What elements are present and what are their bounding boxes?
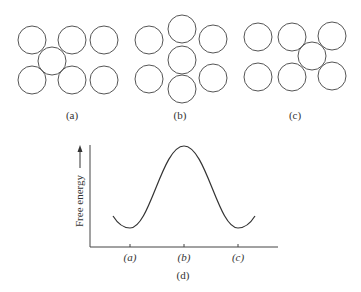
panel-d-label: (d) <box>177 269 190 282</box>
tick-label-c: (c) <box>232 251 245 264</box>
atom-circles <box>18 15 346 103</box>
atom-circle-panel-b <box>168 75 196 103</box>
atom-circle-panel-a <box>18 66 46 94</box>
arrow-head-icon <box>78 145 83 152</box>
y-axis-label-group: Free energy <box>73 174 85 227</box>
atom-circle-panel-c <box>278 63 306 91</box>
atom-circle-panel-b <box>168 46 196 74</box>
atom-circle-panel-b <box>199 25 227 53</box>
free-energy-curve <box>113 146 255 228</box>
atom-circle-panel-a <box>58 66 86 94</box>
atom-circle-panel-b <box>199 64 227 92</box>
tick-label-a: (a) <box>124 251 137 264</box>
atom-circle-panel-b <box>135 65 163 93</box>
tick-label-b: (b) <box>178 251 191 264</box>
energy-chart: Free energy (a) (b) (c) (d) <box>73 145 278 282</box>
atom-circle-panel-a <box>90 26 118 54</box>
y-axis-label: Free energy <box>73 174 85 227</box>
atom-circle-panel-a <box>90 66 118 94</box>
atom-circle-panel-c <box>244 23 272 51</box>
atom-circle-panel-c <box>318 62 346 90</box>
atom-circle-panel-c <box>244 63 272 91</box>
panel-a-label: (a) <box>66 109 79 122</box>
diffusion-diagram: (a) (b) (c) Free energy (a) (b) (c) (d) <box>0 0 361 292</box>
atom-circle-panel-a <box>18 26 46 54</box>
atom-circle-panel-b <box>168 15 196 43</box>
atom-circle-panel-b <box>135 26 163 54</box>
atom-circle-panel-a <box>58 26 86 54</box>
panel-b-label: (b) <box>174 109 187 122</box>
panel-c-label: (c) <box>289 109 302 122</box>
